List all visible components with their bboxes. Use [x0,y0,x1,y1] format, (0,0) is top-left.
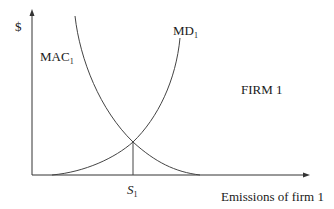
s1-label-subscript: 1 [134,190,138,199]
md1-label-subscript: 1 [194,31,198,40]
x-axis-label: Emissions of firm 1 [221,190,324,203]
mac1-label-name: MAC [40,49,70,64]
diagram-canvas [0,0,334,209]
x-axis-arrow-icon [303,173,310,178]
y-axis-label: $ [15,20,22,33]
md1-label: MD1 [173,24,198,40]
y-axis-arrow-icon [30,9,35,16]
md1-label-name: MD [173,23,194,38]
mac1-label-subscript: 1 [70,57,74,66]
mac1-label: MAC1 [40,50,74,66]
s1-label: S1 [127,183,138,199]
firm-title: FIRM 1 [241,83,283,96]
